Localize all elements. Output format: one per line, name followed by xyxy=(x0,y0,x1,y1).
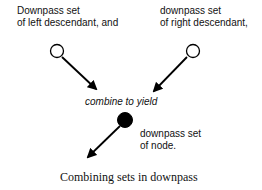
output-label: downpass set of node. xyxy=(140,128,201,152)
output-arrow xyxy=(88,126,120,157)
figure-caption: Combining sets in downpass xyxy=(60,170,198,185)
right-input-line2: of right descendant, xyxy=(160,17,248,29)
left-input-line1: Downpass set xyxy=(17,5,118,17)
right-arrow xyxy=(154,57,187,91)
output-line1: downpass set xyxy=(140,128,201,140)
right-descendant-node xyxy=(187,45,200,58)
left-input-line2: of left descendant, and xyxy=(17,17,118,29)
parent-node xyxy=(118,113,133,128)
left-input-label: Downpass set of left descendant, and xyxy=(17,5,118,29)
operation-label: combine to yield xyxy=(85,96,157,108)
left-descendant-node xyxy=(51,45,64,58)
left-arrow xyxy=(62,57,96,89)
output-line2: of node. xyxy=(140,140,201,152)
right-input-label: downpass set of right descendant, xyxy=(160,5,248,29)
right-input-line1: downpass set xyxy=(160,5,248,17)
